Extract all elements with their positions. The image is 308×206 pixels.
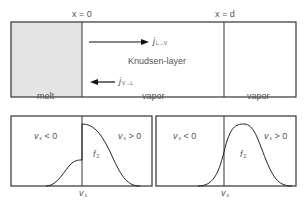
arrow-left-icon [90,79,115,85]
flux-subscript: V→L [122,80,133,86]
inequality: < 0 [181,131,196,141]
melt-label: melt [37,91,54,101]
bl-vx-axis-label: vx [79,188,87,198]
v-symbol: v [118,131,123,141]
v-symbol: v [79,188,84,198]
flux-subscript: L→V [156,40,167,46]
v-subscript: x [227,192,230,198]
vapor-label-knudsen: vapor [142,91,165,101]
v-symbol: v [221,188,226,198]
v-symbol: v [173,131,178,141]
f-subscript: 2 [244,153,247,159]
diagram-canvas [0,0,308,206]
x0-label: x = 0 [72,9,92,19]
f-symbol: f [240,149,243,159]
flux-symbol: j [153,36,155,46]
v-symbol: v [34,131,39,141]
inequality: > 0 [126,131,141,141]
f-symbol: f [93,149,96,159]
inequality: < 0 [42,131,57,141]
br-negative-velocity-label: vx < 0 [173,131,196,141]
f-subscript: 2 [97,153,100,159]
arrow-right-icon [89,39,149,45]
knudsen-layer-label: Knudsen-layer [128,56,186,66]
xd-label: x = d [215,9,235,19]
flux-liquid-to-vapor-label: jL→V [153,36,167,46]
flux-symbol: j [119,76,121,86]
br-vx-axis-label: vx [221,188,229,198]
bl-f2-label: f2 [93,149,99,159]
bottom-right-frame [156,116,296,186]
br-positive-velocity-label: vx > 0 [264,131,287,141]
v-subscript: x [85,192,88,198]
melt-region [11,22,82,97]
inequality: > 0 [272,131,287,141]
v-symbol: v [264,131,269,141]
bl-positive-velocity-label: vx > 0 [118,131,141,141]
bl-negative-velocity-label: vx < 0 [34,131,57,141]
flux-vapor-to-liquid-label: jV→L [119,76,133,86]
br-f2-label: f2 [240,149,246,159]
vapor-label-bulk: vapor [247,91,270,101]
